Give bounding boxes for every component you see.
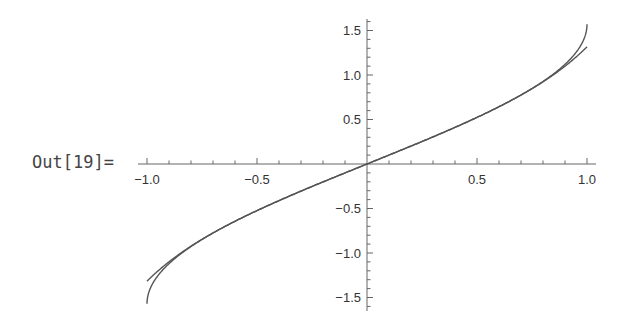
- y-tick-label: −0.5: [335, 201, 361, 216]
- y-tick-label: 1.0: [343, 68, 361, 83]
- x-tick-label: 1.0: [578, 172, 596, 187]
- y-tick-label: 1.5: [343, 23, 361, 38]
- y-tick-label: −1.0: [335, 246, 361, 261]
- x-tick-label: 0.5: [468, 172, 486, 187]
- x-tick-label: −0.5: [244, 172, 270, 187]
- y-tick-label: −1.5: [335, 290, 361, 305]
- y-tick-label: 0.5: [343, 112, 361, 127]
- x-tick-label: −1.0: [134, 172, 160, 187]
- plot-area: −1.0−0.50.51.01.51.00.5−0.5−1.0−1.5: [0, 0, 628, 328]
